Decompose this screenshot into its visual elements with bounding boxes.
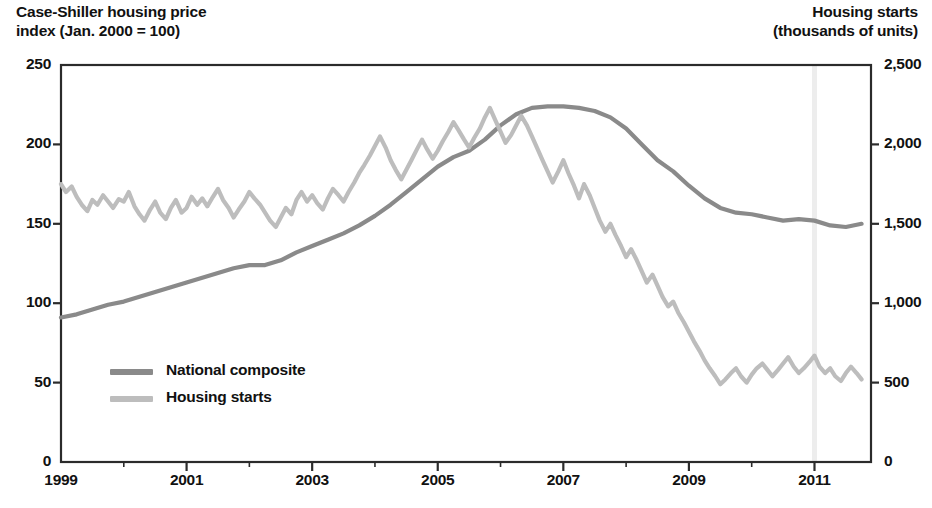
legend-swatch-housing-starts <box>110 396 153 402</box>
x-axis-tick-label: 1999 <box>26 471 96 489</box>
y2-axis-tick-label: 2,500 <box>884 55 932 73</box>
legend-label-national-composite: National composite <box>166 361 305 379</box>
y-axis-tick-label: 100 <box>0 293 51 311</box>
x-axis-tick-label: 2005 <box>403 471 473 489</box>
x-axis-tick-label: 2011 <box>779 471 849 489</box>
chart-figure: Case-Shiller housing price index (Jan. 2… <box>0 0 932 508</box>
y2-axis-tick-label: 500 <box>884 373 932 391</box>
right-axis-title: Housing starts (thousands of units) <box>773 2 918 40</box>
legend-label-housing-starts: Housing starts <box>166 388 272 406</box>
x-axis-tick-label: 2009 <box>654 471 724 489</box>
legend-swatch-national-composite <box>110 369 153 375</box>
y2-axis-tick-label: 1,500 <box>884 214 932 232</box>
y-axis-tick-label: 200 <box>0 134 51 152</box>
chart-series-housing-starts <box>61 108 862 384</box>
y-axis-tick-label: 50 <box>0 373 51 391</box>
y-axis-tick-label: 150 <box>0 214 51 232</box>
y2-axis-tick-label: 0 <box>884 452 932 470</box>
x-axis-tick-label: 2007 <box>528 471 598 489</box>
x-axis-tick-label: 2003 <box>277 471 347 489</box>
y2-axis-tick-label: 2,000 <box>884 134 932 152</box>
y-axis-tick-label: 250 <box>0 55 51 73</box>
left-axis-title: Case-Shiller housing price index (Jan. 2… <box>16 2 206 40</box>
y-axis-tick-label: 0 <box>0 452 51 470</box>
x-axis-tick-label: 2001 <box>152 471 222 489</box>
chart-plot-area <box>0 0 932 508</box>
y2-axis-tick-label: 1,000 <box>884 293 932 311</box>
